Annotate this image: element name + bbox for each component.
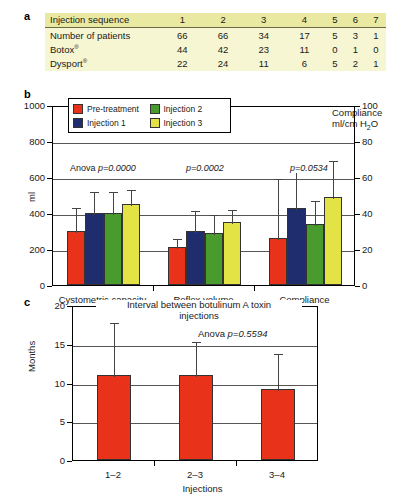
panel-a-letter: a [24, 10, 30, 22]
table-cell: 66 [162, 27, 203, 43]
table-row: Botox® 44 42 23 11 0 1 0 [45, 43, 386, 57]
table-cell: 42 [203, 43, 244, 57]
error-bar [315, 201, 316, 226]
panel-c-chart: c Months Interval between botulinum A to… [0, 284, 405, 497]
y2-tick-label: 40 [362, 208, 392, 219]
table-cell: 2 [345, 57, 365, 71]
bar-0 [168, 247, 186, 285]
gridline [53, 143, 354, 144]
y-tick-label: 10 [32, 378, 65, 389]
error-bar-cap [210, 215, 219, 216]
legend-item-injection-1: Injection 1 [73, 118, 150, 128]
error-bar-cap [274, 179, 283, 180]
y-tick-mark [47, 214, 52, 215]
legend-item-injection-3: Injection 3 [150, 118, 227, 128]
y2-tick-mark [355, 250, 360, 251]
table-cell: 44 [162, 43, 203, 57]
bar-2 [306, 224, 324, 285]
registered-mark: ® [74, 44, 78, 50]
y-tick-mark [47, 142, 52, 143]
y-tick-mark [67, 422, 72, 423]
error-bar-cap [329, 161, 338, 162]
y2-tick-label: 100 [362, 100, 392, 111]
bar-0 [97, 375, 131, 460]
y2-tick-mark [355, 178, 360, 179]
panel-c-pvalue: Anova p=0.5594 [196, 328, 269, 339]
panel-b-y-axis-title: ml [26, 192, 37, 202]
table-cell: 34 [243, 27, 284, 43]
error-bar [278, 354, 279, 391]
y-tick-label: 20 [32, 300, 65, 311]
panel-b-plot-area [52, 106, 355, 286]
gridline [53, 179, 354, 180]
legend-swatch-injection-2 [150, 104, 160, 114]
error-bar [177, 239, 178, 249]
table-cell: 5 [325, 27, 345, 43]
panel-c-x-axis-title: Injections [0, 483, 405, 494]
error-bar [196, 342, 197, 377]
table-col-header-1: 1 [162, 13, 203, 27]
table-col-header-4: 4 [284, 13, 325, 27]
panel-b-chart: b ml Compliance ml/cm H2O Pre-treatment … [0, 72, 405, 284]
table-cell: 66 [203, 27, 244, 43]
error-bar [76, 208, 77, 233]
legend-label: Pre-treatment [87, 104, 139, 114]
x-tick-mark [236, 461, 237, 466]
bar-3 [324, 197, 342, 285]
table-col-header-5: 5 [325, 13, 345, 27]
registered-mark: ® [83, 58, 87, 64]
y-tick-label: 5 [32, 416, 65, 427]
error-bar-cap [72, 208, 81, 209]
table-cell: 1 [366, 57, 386, 71]
error-bar-cap [192, 342, 201, 343]
bar-2 [205, 233, 223, 285]
y2-tick-mark [355, 214, 360, 215]
bar-1 [186, 231, 204, 285]
y-tick-label: 15 [32, 339, 65, 350]
panel-b-pvalue: Anova p=0.0000 [68, 163, 138, 173]
y-tick-label: 1000 [12, 100, 45, 111]
gridline [73, 346, 317, 347]
table-cell: 1 [345, 43, 365, 57]
table-cell: 6 [284, 57, 325, 71]
error-bar [94, 192, 95, 215]
error-bar-cap [311, 201, 320, 202]
y-tick-mark [67, 306, 72, 307]
table-cell: 5 [325, 57, 345, 71]
error-bar [232, 210, 233, 224]
y2-tick-mark [355, 106, 360, 107]
legend-item-injection-2: Injection 2 [150, 104, 227, 114]
panel-c-plot-area [72, 306, 318, 461]
table-cell: 0 [325, 43, 345, 57]
error-bar-cap [191, 211, 200, 212]
error-bar-cap [110, 323, 119, 324]
y-tick-label: 400 [12, 208, 45, 219]
error-bar [195, 211, 196, 233]
table-col-header-3: 3 [243, 13, 284, 27]
y-tick-label: 200 [12, 244, 45, 255]
y2-tick-label: 60 [362, 172, 392, 183]
table-cell: 0 [366, 43, 386, 57]
error-bar [131, 190, 132, 206]
table-cell: 24 [203, 57, 244, 71]
legend-label: Injection 2 [164, 104, 203, 114]
bar-0 [179, 375, 213, 460]
bar-0 [67, 231, 85, 285]
table-row-label: Botox® [45, 43, 162, 57]
error-bar [278, 179, 279, 240]
table-row: Number of patients 66 66 34 17 5 3 1 [45, 27, 386, 43]
error-bar-cap [173, 239, 182, 240]
y-tick-label: 0 [32, 455, 65, 466]
panel-b-legend: Pre-treatment Injection 2 Injection 1 In… [68, 98, 231, 133]
legend-swatch-injection-1 [73, 118, 83, 128]
error-bar-cap [274, 354, 283, 355]
error-bar-cap [228, 210, 237, 211]
error-bar [214, 215, 215, 235]
bar-3 [122, 204, 140, 285]
y2-tick-mark [355, 142, 360, 143]
bar-0 [269, 238, 287, 285]
panel-a-table: a Injection sequence 1 2 3 4 5 6 7 Numbe… [0, 0, 405, 72]
x-category-label: 3–4 [226, 469, 328, 480]
bar-1 [287, 208, 305, 285]
panel-b-letter: b [24, 88, 31, 100]
